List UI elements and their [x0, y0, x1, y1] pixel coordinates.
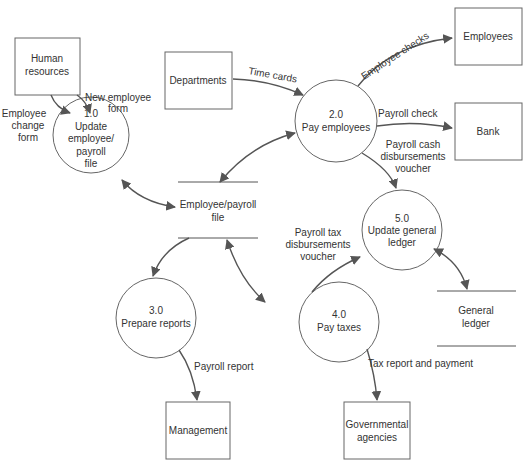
flow-store-to-p3: [153, 238, 189, 276]
svg-text:disbursements: disbursements: [285, 239, 350, 250]
process-number: 4.0: [332, 309, 346, 320]
process-label: Pay employees: [302, 122, 370, 133]
process-label: Pay taxes: [317, 322, 361, 333]
svg-text:form: form: [18, 132, 38, 143]
entity-management[interactable]: Management: [166, 402, 230, 459]
svg-text:voucher: voucher: [300, 251, 336, 262]
flow-p1-store-bidirectional: [122, 180, 175, 207]
process-5-update-general-ledger[interactable]: 5.0 Update general ledger: [362, 190, 442, 270]
process-number: 2.0: [329, 109, 343, 120]
datastore-label: General: [458, 305, 494, 316]
entity-departments[interactable]: Departments: [165, 52, 232, 109]
flow-p5-ledger-bidirectional: [434, 249, 467, 289]
entity-label: Human: [31, 53, 63, 64]
process-label: file: [85, 158, 98, 169]
entity-label: Governmental: [346, 419, 409, 430]
entity-employees[interactable]: Employees: [455, 8, 522, 65]
flow-payroll-tax-voucher: Payroll tax disbursements voucher: [285, 227, 360, 292]
process-number: 1.0: [84, 108, 98, 119]
process-2-pay-employees[interactable]: 2.0 Pay employees: [295, 80, 377, 162]
process-label: employee/: [68, 133, 114, 144]
svg-text:voucher: voucher: [395, 163, 431, 174]
datastore-employee-payroll-file[interactable]: Employee/payroll file: [178, 182, 258, 238]
svg-text:Payroll check: Payroll check: [378, 108, 438, 119]
svg-text:Payroll report: Payroll report: [194, 361, 254, 372]
data-flow-diagram: Human resources Departments Employees Ba…: [0, 0, 528, 476]
entity-governmental-agencies[interactable]: Governmental agencies: [344, 402, 410, 459]
datastore-label: Employee/payroll: [180, 199, 257, 210]
entity-label: Employees: [463, 31, 512, 42]
process-number: 5.0: [395, 213, 409, 224]
flow-time-cards: Time cards: [233, 65, 303, 95]
process-number: 3.0: [149, 305, 163, 316]
flow-p2-store-bidirectional: [220, 133, 295, 182]
svg-text:Employee: Employee: [2, 108, 47, 119]
svg-text:form: form: [108, 103, 128, 114]
entity-bank[interactable]: Bank: [455, 103, 522, 160]
svg-text:Tax report and payment: Tax report and payment: [368, 358, 473, 369]
flow-payroll-report: Payroll report: [179, 350, 254, 400]
entity-label: resources: [25, 66, 69, 77]
process-label: Update: [75, 121, 108, 132]
datastore-general-ledger[interactable]: General ledger: [437, 291, 516, 346]
svg-text:Employee checks: Employee checks: [359, 30, 431, 82]
process-label: payroll: [76, 146, 105, 157]
svg-text:Payroll tax: Payroll tax: [295, 227, 342, 238]
datastore-label: file: [212, 212, 225, 223]
svg-text:disbursements: disbursements: [380, 151, 445, 162]
datastore-label: ledger: [462, 318, 490, 329]
svg-text:Payroll cash: Payroll cash: [386, 139, 440, 150]
svg-text:change: change: [12, 120, 45, 131]
process-label: Update general: [368, 225, 436, 236]
flow-payroll-cash-voucher: Payroll cash disbursements voucher: [362, 139, 446, 188]
entity-label: agencies: [357, 432, 397, 443]
flow-employee-checks: Employee checks: [358, 30, 452, 86]
flow-store-p4-bidirectional: [227, 240, 265, 302]
entity-label: Bank: [477, 126, 501, 137]
entity-label: Management: [169, 425, 228, 436]
entity-human-resources[interactable]: Human resources: [15, 38, 80, 95]
process-label: Prepare reports: [121, 318, 190, 329]
entity-label: Departments: [169, 75, 226, 86]
flow-payroll-check: Payroll check: [377, 108, 452, 128]
process-label: ledger: [388, 237, 416, 248]
process-3-prepare-reports[interactable]: 3.0 Prepare reports: [116, 278, 196, 358]
flow-tax-report-payment: Tax report and payment: [367, 349, 473, 400]
svg-text:New employee: New employee: [85, 92, 152, 103]
